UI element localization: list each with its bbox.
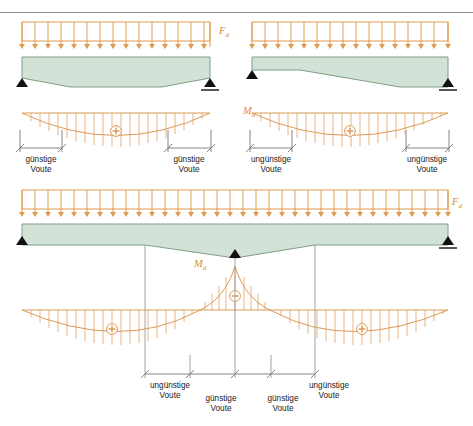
support-pin-row1-right	[246, 70, 258, 79]
moment-symbol-row2: Md	[243, 105, 255, 119]
load-symbol-row1: Fd	[219, 25, 229, 39]
guide-lines-row4	[145, 245, 315, 378]
load-band-row1-left	[19, 22, 210, 49]
voute-label-row2-3: ungünstige Voute	[232, 155, 310, 174]
load-symbol-row3: Fd	[452, 196, 462, 210]
voute-label-row4-2: günstige Voute	[188, 394, 254, 413]
voute-label-row2-1: günstige Voute	[4, 155, 78, 174]
structural-engineering-figure: Fd Md Fd Md günstige Voute günstige Vout…	[0, 0, 473, 426]
moment-diagram-row2-left	[22, 113, 210, 147]
dimension-lines-row2	[16, 130, 453, 152]
dimension-line-row4	[141, 370, 319, 378]
beam-row1-right	[246, 57, 457, 90]
voute-label-row2-2: günstige Voute	[152, 155, 226, 174]
load-band-row3	[19, 190, 451, 217]
moment-diagram-row2-right	[252, 113, 448, 147]
support-roller-row1-left	[201, 78, 219, 90]
beam-row1-left	[16, 57, 219, 90]
figure-canvas	[0, 0, 473, 426]
moment-symbol-row4: Md	[194, 258, 206, 272]
voute-label-row4-4: ungünstige Voute	[290, 381, 368, 400]
voute-label-row2-4: ungünstige Voute	[388, 155, 466, 174]
support-pin-row1-left	[16, 78, 28, 87]
beam-row3-two-span	[16, 224, 457, 258]
load-band-row1-right	[249, 22, 451, 49]
